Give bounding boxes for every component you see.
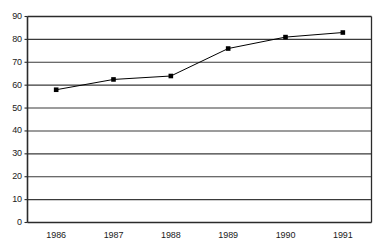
y-tick-label: 40 <box>2 126 22 135</box>
data-point-1989 <box>226 46 231 51</box>
x-tick-label: 1986 <box>36 231 76 240</box>
y-tick-label: 80 <box>2 35 22 44</box>
y-tick-label: 60 <box>2 81 22 90</box>
x-tick-label: 1991 <box>323 231 363 240</box>
data-point-1991 <box>341 30 346 35</box>
line-chart-figure: 0102030405060708090 19861987198819891990… <box>0 0 384 243</box>
data-point-1986 <box>54 87 59 92</box>
data-point-1987 <box>111 77 116 82</box>
data-line-series-1 <box>56 33 343 90</box>
y-tick-label: 20 <box>2 172 22 181</box>
y-tick-label: 90 <box>2 12 22 21</box>
x-tick-label: 1990 <box>266 231 306 240</box>
x-tick-label: 1989 <box>208 231 248 240</box>
x-tick-label: 1987 <box>94 231 134 240</box>
y-tick-label: 0 <box>2 218 22 227</box>
y-tick-label: 30 <box>2 149 22 158</box>
data-point-1988 <box>169 74 174 79</box>
axis-frame <box>28 17 372 223</box>
x-tick-label: 1988 <box>151 231 191 240</box>
y-tick-label: 10 <box>2 195 22 204</box>
gridlines-horizontal <box>28 39 372 199</box>
plot-area <box>0 0 384 243</box>
y-tick-label: 50 <box>2 104 22 113</box>
y-tick-label: 70 <box>2 58 22 67</box>
data-point-1990 <box>283 35 288 40</box>
